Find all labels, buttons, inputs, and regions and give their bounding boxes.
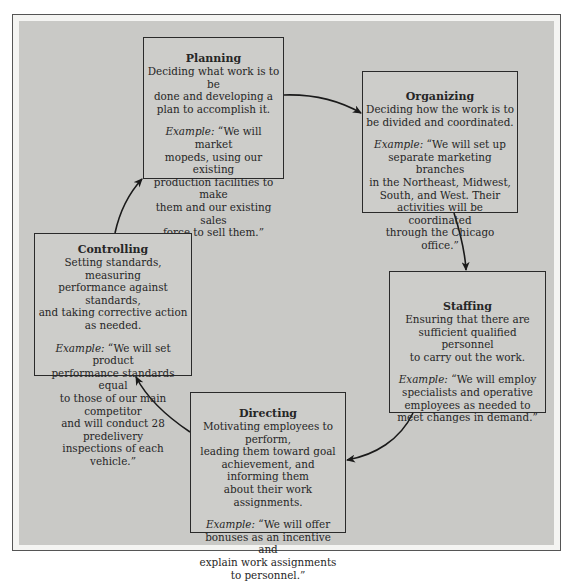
node-description: Motivating employees to perform, leading…	[194, 420, 342, 508]
node-description: Ensuring that there are sufficient quali…	[393, 313, 542, 363]
example-text: “We will market mopeds, using our existi…	[154, 125, 273, 238]
example-label: Example:	[55, 342, 104, 354]
example-label: Example:	[374, 138, 423, 150]
node-staffing: Staffing Ensuring that there are suffici…	[389, 271, 546, 413]
node-planning: Planning Deciding what work is to be don…	[143, 37, 284, 179]
node-description: Deciding how the work is to be divided a…	[366, 103, 514, 128]
example-label: Example:	[206, 518, 255, 530]
example-text: “We will set product performance standar…	[51, 342, 174, 467]
node-description: Deciding what work is to be done and dev…	[147, 65, 280, 115]
node-title: Organizing	[366, 90, 514, 103]
example-label: Example:	[165, 125, 214, 137]
node-example: Example: “We will set up separate market…	[366, 138, 514, 251]
node-description: Setting standards, measuring performance…	[38, 256, 188, 332]
node-controlling: Controlling Setting standards, measuring…	[34, 233, 192, 376]
node-example: Example: “We will market mopeds, using o…	[147, 125, 280, 238]
node-directing: Directing Motivating employees to perfor…	[190, 392, 346, 533]
example-label: Example:	[399, 373, 448, 385]
node-example: Example: “We will set product performanc…	[38, 342, 188, 468]
node-example: Example: “We will employ specialists and…	[393, 373, 542, 423]
node-example: Example: “We will offer bonuses as an in…	[194, 518, 342, 581]
node-title: Controlling	[38, 243, 188, 256]
node-title: Planning	[147, 52, 280, 65]
node-organizing: Organizing Deciding how the work is to b…	[362, 71, 518, 213]
node-title: Staffing	[393, 300, 542, 313]
node-title: Directing	[194, 407, 342, 420]
example-text: “We will set up separate marketing branc…	[369, 138, 511, 251]
